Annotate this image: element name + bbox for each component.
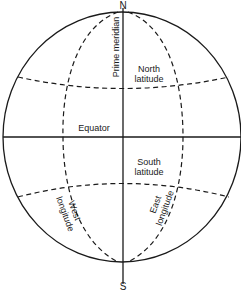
north-pole-label: N	[119, 0, 126, 11]
prime-meridian-label: Prime meridian	[111, 17, 121, 78]
south-pole-label: S	[120, 281, 127, 292]
globe-diagram: N S Prime meridian North latitude Equato…	[0, 0, 241, 292]
south-latitude-label-2: latitude	[134, 167, 163, 177]
north-latitude-label-1: North	[138, 64, 160, 74]
equator-label: Equator	[78, 123, 110, 133]
north-latitude-label-2: latitude	[134, 74, 163, 84]
south-latitude-label-1: South	[137, 157, 161, 167]
